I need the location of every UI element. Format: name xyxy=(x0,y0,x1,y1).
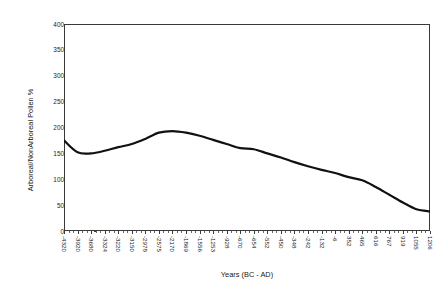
x-tick-label-text: -3680 xyxy=(88,236,95,252)
x-tick-mark xyxy=(335,231,336,234)
x-tick-minor-mark xyxy=(371,231,372,233)
x-tick-minor-mark xyxy=(340,231,341,233)
x-tick-label-text: -670 xyxy=(237,236,244,248)
x-tick-label-text: -3324 xyxy=(101,236,108,252)
x-tick-label: 767 xyxy=(384,236,394,266)
x-tick-label: 1206 xyxy=(425,236,435,266)
x-tick-minor-mark xyxy=(290,231,291,233)
x-tick-label-text: -3150 xyxy=(128,236,135,252)
x-tick-label: -242 xyxy=(303,236,313,266)
x-tick-minor-mark xyxy=(231,231,232,233)
x-tick-minor-mark xyxy=(154,231,155,233)
x-tick-minor-mark xyxy=(421,231,422,233)
x-tick-label: -4320 xyxy=(59,236,69,266)
x-tick-mark xyxy=(267,231,268,234)
x-tick-minor-mark xyxy=(191,231,192,233)
x-tick-minor-mark xyxy=(394,231,395,233)
x-tick-minor-mark xyxy=(407,231,408,233)
x-tick-label-text: 616 xyxy=(372,236,379,246)
x-tick-minor-mark xyxy=(317,231,318,233)
x-tick-label: -3150 xyxy=(127,236,137,266)
x-tick-mark xyxy=(349,231,350,234)
x-tick-label-text: -552 xyxy=(264,236,271,248)
x-tick-label-text: -450 xyxy=(277,236,284,248)
x-tick-mark xyxy=(376,231,377,234)
x-tick-label-text: -928 xyxy=(223,236,230,248)
x-tick-mark xyxy=(403,231,404,234)
x-tick-mark xyxy=(132,231,133,234)
x-tick-label-text: -1253 xyxy=(210,236,217,252)
x-tick-label: -2170 xyxy=(167,236,177,266)
x-tick-label-text: 1206 xyxy=(427,236,434,250)
x-tick-label-text: -3920 xyxy=(74,236,81,252)
x-tick-mark xyxy=(64,231,65,234)
x-tick-minor-mark xyxy=(258,231,259,233)
x-tick-mark xyxy=(294,231,295,234)
x-tick-label: -1253 xyxy=(208,236,218,266)
pollen-line-chart: Arboreal/NonArboreal Pollen % 4003503002… xyxy=(0,0,448,291)
x-tick-label: -1556 xyxy=(195,236,205,266)
x-tick-mark xyxy=(159,231,160,234)
x-tick-minor-mark xyxy=(263,231,264,233)
x-tick-minor-mark xyxy=(344,231,345,233)
x-tick-label: -348 xyxy=(289,236,299,266)
x-tick-minor-mark xyxy=(127,231,128,233)
x-tick-label: 919 xyxy=(398,236,408,266)
x-tick-minor-mark xyxy=(181,231,182,233)
x-tick-minor-mark xyxy=(123,231,124,233)
x-tick-minor-mark xyxy=(114,231,115,233)
x-tick-minor-mark xyxy=(385,231,386,233)
x-tick-label: -670 xyxy=(235,236,245,266)
x-tick-label: -3220 xyxy=(113,236,123,266)
x-tick-minor-mark xyxy=(87,231,88,233)
x-tick-label: -6 xyxy=(330,236,340,266)
x-tick-minor-mark xyxy=(285,231,286,233)
x-tick-mark xyxy=(91,231,92,234)
x-tick-minor-mark xyxy=(367,231,368,233)
x-tick-minor-mark xyxy=(326,231,327,233)
x-tick-label-text: -1869 xyxy=(183,236,190,252)
x-tick-mark xyxy=(186,231,187,234)
x-tick-minor-mark xyxy=(245,231,246,233)
x-axis-title: Years (BC - AD) xyxy=(64,270,430,280)
x-tick-label: 465 xyxy=(357,236,367,266)
x-tick-minor-mark xyxy=(141,231,142,233)
x-tick-mark xyxy=(213,231,214,234)
x-tick-minor-mark xyxy=(276,231,277,233)
x-tick-minor-mark xyxy=(236,231,237,233)
x-tick-mark xyxy=(254,231,255,234)
x-tick-minor-mark xyxy=(222,231,223,233)
x-tick-minor-mark xyxy=(299,231,300,233)
x-tick-minor-mark xyxy=(358,231,359,233)
x-tick-minor-mark xyxy=(218,231,219,233)
x-tick-minor-mark xyxy=(96,231,97,233)
x-tick-mark xyxy=(430,231,431,234)
x-tick-minor-mark xyxy=(303,231,304,233)
x-tick-label: -654 xyxy=(249,236,259,266)
x-tick-mark xyxy=(227,231,228,234)
x-tick-label: 616 xyxy=(371,236,381,266)
x-tick-label-text: 767 xyxy=(386,236,393,246)
x-tick-minor-mark xyxy=(163,231,164,233)
x-tick-label-text: -132 xyxy=(318,236,325,248)
x-tick-label: 352 xyxy=(344,236,354,266)
x-tick-minor-mark xyxy=(150,231,151,233)
x-tick-minor-mark xyxy=(82,231,83,233)
x-tick-minor-mark xyxy=(204,231,205,233)
x-tick-label: -2575 xyxy=(154,236,164,266)
x-tick-label: -1869 xyxy=(181,236,191,266)
x-tick-minor-mark xyxy=(425,231,426,233)
x-tick-label-text: -2170 xyxy=(169,236,176,252)
x-tick-minor-mark xyxy=(168,231,169,233)
x-tick-label: -450 xyxy=(276,236,286,266)
x-tick-label: -3324 xyxy=(100,236,110,266)
x-tick-label-text: -6 xyxy=(332,236,339,242)
x-tick-mark xyxy=(240,231,241,234)
x-tick-label-text: -242 xyxy=(305,236,312,248)
x-tick-minor-mark xyxy=(73,231,74,233)
x-tick-minor-mark xyxy=(136,231,137,233)
x-tick-label-text: 919 xyxy=(399,236,406,246)
x-tick-mark xyxy=(172,231,173,234)
x-axis-ticks: -4320-3920-3680-3324-3220-3150-2978-2575… xyxy=(0,0,448,291)
x-tick-minor-mark xyxy=(313,231,314,233)
